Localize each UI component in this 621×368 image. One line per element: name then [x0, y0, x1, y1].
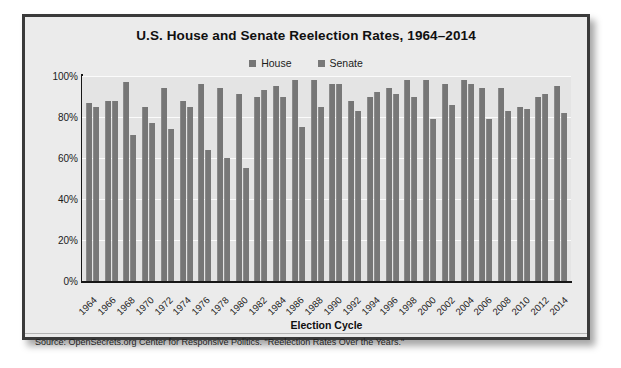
- bar-senate-2004[interactable]: [468, 84, 474, 281]
- bar-senate-1966[interactable]: [112, 101, 118, 281]
- bar-senate-2000[interactable]: [430, 119, 436, 281]
- x-axis-tick-2002: 2002: [439, 284, 458, 324]
- bar-house-2006[interactable]: [479, 88, 485, 281]
- x-axis-tick-1978: 1978: [214, 284, 233, 324]
- x-axis-tick-2006: 2006: [477, 284, 496, 324]
- bar-senate-1988[interactable]: [318, 107, 324, 281]
- bar-senate-1992[interactable]: [355, 111, 361, 281]
- legend-label: House: [261, 57, 291, 69]
- bar-house-1970[interactable]: [142, 107, 148, 281]
- bar-house-1998[interactable]: [404, 80, 410, 281]
- bar-senate-1990[interactable]: [336, 84, 342, 281]
- bar-senate-1996[interactable]: [393, 94, 399, 281]
- bar-senate-1976[interactable]: [205, 150, 211, 281]
- bar-senate-1970[interactable]: [149, 123, 155, 281]
- bar-house-2014[interactable]: [554, 86, 560, 281]
- source-note: Source: OpenSecrets.org Center for Respo…: [35, 337, 404, 347]
- bar-house-2008[interactable]: [498, 88, 504, 281]
- bar-house-1964[interactable]: [86, 103, 92, 281]
- bar-group-2000: [420, 76, 439, 281]
- y-axis-tick-label: 80%: [30, 112, 78, 123]
- bar-house-1972[interactable]: [161, 88, 167, 281]
- x-axis-tick-1964: 1964: [82, 284, 101, 324]
- bar-group-1984: [270, 76, 289, 281]
- bar-house-1990[interactable]: [329, 84, 335, 281]
- bar-group-1980: [233, 76, 252, 281]
- x-axis-tick-1986: 1986: [289, 284, 308, 324]
- bar-house-2000[interactable]: [423, 80, 429, 281]
- x-axis-tick-1996: 1996: [383, 284, 402, 324]
- bar-senate-1986[interactable]: [299, 127, 305, 281]
- x-axis-tick-2014: 2014: [552, 284, 571, 324]
- bar-house-1986[interactable]: [292, 80, 298, 281]
- bar-senate-1968[interactable]: [130, 135, 136, 281]
- bar-group-1968: [120, 76, 139, 281]
- bar-group-1966: [102, 76, 121, 281]
- bar-senate-1982[interactable]: [261, 90, 267, 281]
- bar-house-1988[interactable]: [311, 80, 317, 281]
- x-axis-tick-1974: 1974: [176, 284, 195, 324]
- bar-senate-2010[interactable]: [524, 109, 530, 281]
- bar-house-1978[interactable]: [217, 88, 223, 281]
- bar-series-container: [82, 76, 571, 281]
- bar-house-1984[interactable]: [273, 86, 279, 281]
- bar-senate-1980[interactable]: [243, 168, 249, 281]
- bar-senate-1978[interactable]: [224, 158, 230, 281]
- x-axis-tick-1980: 1980: [233, 284, 252, 324]
- x-axis-tick-1970: 1970: [138, 284, 157, 324]
- x-axis-labels: 1964196619681970197219741976197819801982…: [82, 284, 571, 324]
- x-axis-line: [81, 281, 572, 283]
- bar-house-2004[interactable]: [461, 80, 467, 281]
- bar-senate-2012[interactable]: [542, 94, 548, 281]
- bar-group-1994: [364, 76, 383, 281]
- bar-senate-2008[interactable]: [505, 111, 511, 281]
- bar-group-1998: [401, 76, 420, 281]
- bar-house-1996[interactable]: [386, 88, 392, 281]
- page-title: U.S. House and Senate Reelection Rates, …: [25, 28, 587, 43]
- bar-house-1994[interactable]: [367, 97, 373, 282]
- bar-house-1966[interactable]: [105, 101, 111, 281]
- bar-senate-2002[interactable]: [449, 105, 455, 281]
- bar-group-2008: [495, 76, 514, 281]
- bar-senate-1974[interactable]: [187, 107, 193, 281]
- bar-group-2014: [551, 76, 570, 281]
- legend-item-house[interactable]: House: [249, 57, 291, 69]
- x-axis-tick-1998: 1998: [402, 284, 421, 324]
- x-axis-tick-1976: 1976: [195, 284, 214, 324]
- y-axis-tick-label: 60%: [30, 153, 78, 164]
- bar-senate-1972[interactable]: [168, 129, 174, 281]
- y-axis-tick-label: 20%: [30, 235, 78, 246]
- bar-house-1982[interactable]: [254, 97, 260, 282]
- bar-house-2012[interactable]: [535, 97, 541, 282]
- bar-house-1992[interactable]: [348, 101, 354, 281]
- x-axis-tick-1988: 1988: [308, 284, 327, 324]
- bar-senate-1994[interactable]: [374, 92, 380, 281]
- x-axis-tick-2000: 2000: [421, 284, 440, 324]
- bar-house-2010[interactable]: [517, 107, 523, 281]
- bar-senate-1998[interactable]: [411, 97, 417, 282]
- bar-senate-1964[interactable]: [93, 107, 99, 281]
- bar-house-1968[interactable]: [123, 82, 129, 281]
- x-axis-tick-1966: 1966: [101, 284, 120, 324]
- senate-swatch: [318, 60, 325, 67]
- chart-legend: HouseSenate: [25, 57, 587, 69]
- y-axis-tick-label: 100%: [30, 71, 78, 82]
- bar-group-1982: [252, 76, 271, 281]
- bar-senate-2006[interactable]: [486, 119, 492, 281]
- bar-house-2002[interactable]: [442, 84, 448, 281]
- x-axis-tick-label: 1964: [77, 294, 100, 317]
- legend-item-senate[interactable]: Senate: [318, 57, 363, 69]
- x-axis-tick-1994: 1994: [364, 284, 383, 324]
- bar-group-1970: [139, 76, 158, 281]
- chart-figure: U.S. House and Senate Reelection Rates, …: [22, 14, 590, 340]
- y-axis-labels: 0%20%40%60%80%100%: [25, 76, 78, 281]
- bar-group-2012: [533, 76, 552, 281]
- bar-senate-1984[interactable]: [280, 97, 286, 282]
- bar-house-1976[interactable]: [198, 84, 204, 281]
- bar-house-1980[interactable]: [236, 94, 242, 281]
- bar-senate-2014[interactable]: [561, 113, 567, 281]
- x-axis-title: Election Cycle: [82, 319, 571, 331]
- house-swatch: [249, 60, 256, 67]
- bar-house-1974[interactable]: [180, 101, 186, 281]
- bar-group-1972: [158, 76, 177, 281]
